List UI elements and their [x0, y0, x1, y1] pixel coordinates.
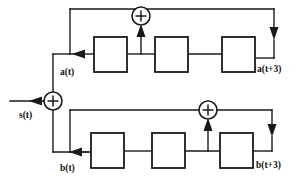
bottom-feedback-down-arrowhead	[268, 124, 277, 137]
top-adder	[132, 7, 150, 25]
bottom-input-left-arrowhead	[69, 148, 82, 157]
main-adder	[44, 92, 62, 110]
top-output-path	[255, 40, 274, 58]
top-feedback-down-arrowhead	[270, 27, 279, 40]
label-top-input: a(t)	[60, 67, 74, 77]
top-delay-1	[94, 37, 127, 72]
top-input-left-arrowhead	[72, 50, 85, 59]
top-delay-2	[155, 37, 188, 72]
bottom-adder	[199, 101, 217, 119]
bottom-delay-1	[91, 133, 124, 168]
label-bottom-output: b(t+3)	[256, 160, 281, 170]
top-delay-3	[222, 37, 255, 72]
output-signal-arrowhead	[29, 97, 42, 106]
signal-flow-diagram: a(t) a(t+3) s(t) b(t) b(t+3)	[0, 0, 301, 179]
top-adder-up-arrowhead	[137, 24, 146, 37]
bottom-delay-2	[152, 133, 185, 168]
label-bottom-input: b(t)	[60, 163, 75, 173]
label-output-signal: s(t)	[19, 110, 32, 120]
label-top-output: a(t+3)	[257, 64, 281, 74]
bottom-adder-up-arrowhead	[204, 118, 213, 131]
bottom-delay-3	[220, 133, 253, 168]
bottom-output-path	[253, 137, 272, 151]
diagram-canvas	[0, 0, 301, 179]
